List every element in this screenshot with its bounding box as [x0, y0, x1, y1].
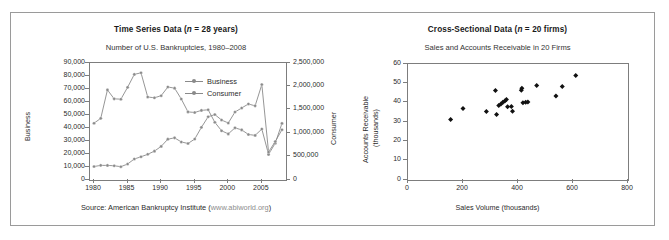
series-point-consumer	[106, 164, 109, 167]
ts-left-ytick: 60,000	[31, 97, 85, 104]
series-point-consumer	[254, 104, 257, 107]
series-point-business	[260, 127, 263, 130]
scatter-xtick: 0	[391, 184, 423, 191]
series-point-business	[92, 122, 95, 125]
ts-xtick-mark	[160, 179, 161, 183]
ts-left-ytick-mark	[85, 127, 89, 128]
scatter-ytick: 10	[371, 155, 401, 162]
series-point-consumer	[92, 165, 95, 168]
series-point-consumer	[247, 102, 250, 105]
scatter-ytick-mark	[403, 121, 407, 122]
series-point-business	[186, 110, 189, 113]
series-point-business	[247, 133, 250, 136]
series-point-business	[139, 71, 142, 74]
cross-sectional-title-tail: = 20 firms)	[523, 25, 568, 34]
series-point-business	[240, 128, 243, 131]
ts-right-ytick: 2,000,000	[293, 81, 324, 88]
scatter-plot-area	[407, 63, 629, 181]
panel-time-series: Time Series Data (n = 28 years) Number o…	[11, 13, 341, 225]
series-point-business	[180, 97, 183, 100]
ts-xtick-mark	[261, 179, 262, 183]
scatter-ytick: 40	[371, 97, 401, 104]
series-point-consumer	[220, 118, 223, 121]
ts-xtick-mark	[227, 179, 228, 183]
scatter-point	[484, 109, 489, 114]
ts-left-ytick-mark	[85, 140, 89, 141]
scatter-y-axis-title-line1: Accounts Receivable	[361, 96, 370, 163]
ts-right-ytick: 0	[293, 175, 297, 182]
scatter-ytick: 30	[371, 117, 401, 124]
ts-right-ytick-mark	[286, 132, 290, 133]
scatter-xtick: 200	[446, 184, 478, 191]
scatter-point	[560, 84, 565, 89]
ts-xtick: 2000	[211, 184, 243, 191]
series-point-consumer	[166, 138, 169, 141]
ts-right-ytick: 1,000,000	[293, 128, 324, 135]
cross-sectional-title: Cross-Sectional Data (n = 20 firms)	[341, 25, 654, 34]
series-point-consumer	[233, 110, 236, 113]
scatter-xtick: 600	[556, 184, 588, 191]
ts-right-ytick-mark	[286, 179, 290, 180]
series-point-business	[227, 132, 230, 135]
ts-left-ytick: 10,000	[31, 162, 85, 169]
scatter-ytick: 0	[371, 175, 401, 182]
scatter-xtick-mark	[462, 179, 463, 183]
scatter-ytick-mark	[403, 63, 407, 64]
series-point-consumer	[193, 138, 196, 141]
scatter-xtick-mark	[517, 179, 518, 183]
ts-left-ytick-mark	[85, 88, 89, 89]
scatter-xtick-mark	[627, 179, 628, 183]
series-point-business	[213, 121, 216, 124]
series-point-consumer	[146, 153, 149, 156]
ts-xtick: 2005	[245, 184, 277, 191]
series-point-consumer	[213, 113, 216, 116]
series-point-consumer	[240, 106, 243, 109]
ts-left-ytick: 90,000	[31, 58, 85, 65]
scatter-xtick-mark	[407, 179, 408, 183]
legend-marker-icon	[185, 77, 203, 85]
source-suffix: )	[269, 203, 271, 212]
legend-label: Business	[207, 77, 237, 86]
time-series-title-tail: = 28 years)	[192, 25, 238, 34]
ts-xtick: 1985	[111, 184, 143, 191]
ts-right-ytick-mark	[286, 62, 290, 63]
scatter-x-axis-title: Sales Volume (thousands)	[341, 203, 654, 212]
ts-left-ytick: 0	[31, 175, 85, 182]
scatter-point	[461, 106, 466, 111]
ts-left-ytick-mark	[85, 62, 89, 63]
ts-right-ytick-mark	[286, 85, 290, 86]
ts-xtick-mark	[93, 179, 94, 183]
legend-item-business[interactable]: Business	[185, 75, 241, 87]
scatter-ytick-mark	[403, 101, 407, 102]
series-point-consumer	[99, 164, 102, 167]
scatter-point	[494, 112, 499, 117]
time-series-legend: BusinessConsumer	[185, 75, 241, 99]
scatter-point	[510, 109, 515, 114]
ts-left-ytick-mark	[85, 166, 89, 167]
scatter-xtick-mark	[572, 179, 573, 183]
series-point-consumer	[139, 155, 142, 158]
ts-right-ytick: 500,000	[293, 151, 318, 158]
series-point-consumer	[160, 145, 163, 148]
ts-left-ytick-mark	[85, 153, 89, 154]
series-point-consumer	[260, 83, 263, 86]
series-point-consumer	[153, 150, 156, 153]
scatter-ytick-mark	[403, 140, 407, 141]
scatter-ytick: 20	[371, 136, 401, 143]
series-point-consumer	[267, 150, 270, 153]
scatter-ytick: 60	[371, 59, 401, 66]
ts-right-ytick-mark	[286, 155, 290, 156]
series-point-consumer	[133, 157, 136, 160]
ts-xtick: 1995	[178, 184, 210, 191]
panel-cross-sectional: Cross-Sectional Data (n = 20 firms) Sale…	[341, 13, 654, 225]
ts-left-ytick: 20,000	[31, 149, 85, 156]
source-url[interactable]: www.abiworld.org	[211, 203, 269, 212]
legend-label: Consumer	[207, 89, 241, 98]
ts-left-ytick-mark	[85, 179, 89, 180]
series-point-consumer	[119, 165, 122, 168]
series-point-business	[200, 109, 203, 112]
series-point-consumer	[274, 140, 277, 143]
legend-item-consumer[interactable]: Consumer	[185, 87, 241, 99]
series-point-consumer	[126, 162, 129, 165]
ts-xtick: 1990	[144, 184, 176, 191]
